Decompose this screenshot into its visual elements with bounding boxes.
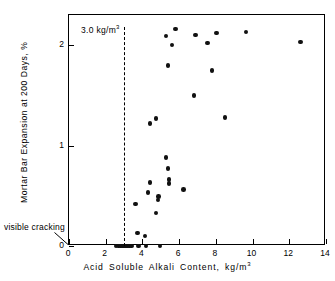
data-point <box>135 231 140 236</box>
x-tick-label: 0 <box>66 248 71 258</box>
x-tick-label: 2 <box>102 248 107 258</box>
y-tick-label: 1 <box>59 140 64 150</box>
data-point <box>154 211 159 216</box>
x-axis-title-text: Acid Soluble Alkali Content, kg/m <box>83 262 247 272</box>
data-point <box>143 234 148 239</box>
data-point <box>114 244 119 249</box>
data-point <box>125 244 130 249</box>
x-tick <box>106 239 107 244</box>
data-point <box>167 181 172 186</box>
y-axis-title: Mortar Bar Expansion at 200 Days, % <box>19 63 29 203</box>
data-point <box>126 244 131 249</box>
data-point <box>223 115 228 120</box>
data-point <box>154 116 159 121</box>
y-tick <box>69 45 74 46</box>
x-axis-title-superscript: 3 <box>247 261 251 267</box>
plot-area <box>68 14 325 245</box>
visible-cracking-annotation: visible cracking <box>4 222 65 232</box>
data-point <box>166 63 171 68</box>
threshold-label: 3.0 kg/m3 <box>81 24 120 35</box>
x-tick-label: 8 <box>212 248 217 258</box>
data-point <box>148 180 153 185</box>
y-tick <box>69 246 74 247</box>
data-point <box>144 244 149 249</box>
x-tick <box>142 239 143 244</box>
data-point <box>146 190 151 195</box>
x-axis-title: Acid Soluble Alkali Content, kg/m3 <box>0 261 335 272</box>
data-point <box>166 166 171 171</box>
data-point <box>205 41 210 46</box>
data-point <box>156 198 161 203</box>
data-points-layer <box>69 15 324 244</box>
data-point <box>158 244 163 249</box>
y-tick <box>69 146 74 147</box>
data-point <box>127 244 132 249</box>
x-tick <box>179 239 180 244</box>
data-point <box>298 40 303 45</box>
x-tick <box>216 239 217 244</box>
x-tick-label: 6 <box>176 248 181 258</box>
data-point <box>118 244 123 249</box>
visible-cracking-leader-line <box>54 232 70 245</box>
data-point <box>167 177 172 182</box>
x-tick-label: 4 <box>139 248 144 258</box>
x-tick-label: 14 <box>320 248 329 258</box>
x-tick <box>326 239 327 244</box>
data-point <box>244 30 249 35</box>
data-point <box>214 31 219 36</box>
y-tick-label: 2 <box>59 39 64 49</box>
threshold-dashed-line <box>124 27 125 246</box>
data-point <box>170 43 175 48</box>
data-point <box>164 155 169 160</box>
data-point <box>173 27 178 32</box>
data-point <box>193 33 198 38</box>
x-tick <box>253 239 254 244</box>
data-point <box>133 202 138 207</box>
x-tick-label: 12 <box>284 248 293 258</box>
scatter-chart-figure: 3.0 kg/m3 02468101214 012 Acid Soluble A… <box>0 0 335 281</box>
data-point <box>116 244 121 249</box>
data-point <box>192 93 197 98</box>
x-tick-label: 10 <box>247 248 256 258</box>
data-point <box>210 68 215 73</box>
data-point <box>181 187 186 192</box>
x-tick <box>289 239 290 244</box>
data-point <box>148 121 153 126</box>
threshold-label-text: 3.0 kg/m <box>81 25 116 35</box>
threshold-label-superscript: 3 <box>116 24 120 30</box>
data-point <box>164 34 169 39</box>
data-point <box>129 244 134 249</box>
data-point <box>156 194 161 199</box>
